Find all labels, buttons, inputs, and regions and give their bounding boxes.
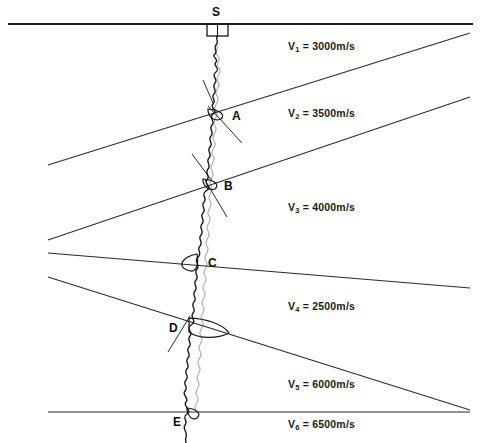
velocity-value-v1: 3000 [312, 40, 336, 52]
source-label: S [212, 5, 220, 19]
velocity-equals-v4: = [300, 300, 313, 312]
interface-line-1 [48, 33, 470, 165]
reflection-lobe-c [182, 254, 198, 271]
velocity-label-v2: V2 = 3500m/s [288, 107, 355, 119]
velocity-subscript-v1: 1 [295, 45, 299, 54]
interface-line-4 [48, 277, 470, 410]
reflection-point-label-d: D [169, 321, 178, 335]
reflection-point-label-b: B [224, 179, 233, 193]
velocity-equals-v1: = [300, 40, 313, 52]
velocity-label-v1: V1 = 3000m/s [288, 40, 355, 52]
velocity-unit-v1: m/s [336, 40, 355, 52]
seismic-trace-noise-overlay [195, 44, 220, 411]
interface-line-2 [48, 97, 470, 240]
velocity-value-v2: 3500 [312, 107, 336, 119]
velocity-label-v4: V4 = 2500m/s [288, 300, 355, 312]
velocity-value-v3: 4000 [312, 201, 336, 213]
velocity-value-v4: 2500 [312, 300, 336, 312]
reflection-point-label-e: E [173, 415, 181, 429]
reflection-point-label-c: C [208, 256, 217, 270]
interface-line-3 [48, 253, 470, 288]
reflection-point-label-a: A [232, 109, 241, 123]
velocity-equals-v6: = [300, 418, 313, 430]
velocity-unit-v6: m/s [336, 418, 355, 430]
velocity-unit-v3: m/s [336, 201, 355, 213]
velocity-label-v6: V6 = 6500m/s [288, 418, 355, 430]
velocity-unit-v2: m/s [336, 107, 355, 119]
figure-canvas [0, 0, 481, 443]
velocity-subscript-v6: 6 [295, 423, 299, 432]
velocity-subscript-v4: 4 [295, 305, 299, 314]
velocity-label-v5: V5 = 6000m/s [288, 378, 355, 390]
velocity-equals-v5: = [300, 378, 313, 390]
velocity-unit-v4: m/s [336, 300, 355, 312]
velocity-label-v3: V3 = 4000m/s [288, 201, 355, 213]
velocity-subscript-v3: 3 [295, 206, 299, 215]
velocity-equals-v3: = [300, 201, 313, 213]
velocity-value-v6: 6500 [312, 418, 336, 430]
seismic-wiggle-trace [184, 36, 218, 443]
velocity-equals-v2: = [300, 107, 313, 119]
velocity-unit-v5: m/s [336, 378, 355, 390]
vsp-figure: S V1 = 3000m/s V2 = 3500m/s V3 = 4000m/s… [0, 0, 481, 443]
velocity-value-v5: 6000 [312, 378, 336, 390]
ray-tick-a-upper [203, 80, 213, 103]
velocity-subscript-v2: 2 [295, 112, 299, 121]
velocity-subscript-v5: 5 [295, 383, 299, 392]
